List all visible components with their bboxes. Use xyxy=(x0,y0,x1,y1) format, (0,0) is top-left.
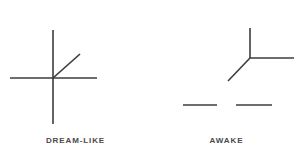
figure-diagram-canvas xyxy=(0,0,302,157)
panel-awake xyxy=(183,28,294,105)
diagonal-arm xyxy=(228,58,250,81)
figure-container: DREAM-LIKE AWAKE xyxy=(0,0,302,157)
diagonal-ray xyxy=(53,54,80,78)
panel-label-awake: AWAKE xyxy=(151,136,302,145)
panel-label-dream-like: DREAM-LIKE xyxy=(0,136,151,145)
panel-dream-like xyxy=(10,30,97,124)
